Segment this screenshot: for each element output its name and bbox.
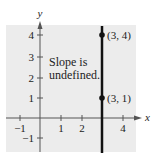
point-label-3-4: (3, 4) (107, 29, 131, 42)
x-tick-label: 4 (120, 122, 126, 134)
y-tick-label: 2 (29, 72, 35, 84)
x-tick-label: 1 (58, 122, 64, 134)
annotation-line-2: undefined. (49, 68, 100, 82)
slope-chart: −1 1 2 4 x 4 3 2 1 −1 y (3, 4) (3, 1) Sl… (0, 0, 157, 161)
y-tick-label: 4 (29, 29, 35, 41)
point-3-1 (99, 95, 105, 101)
point-label-3-1: (3, 1) (107, 92, 131, 105)
y-tick-label: −1 (22, 132, 34, 144)
point-3-4 (99, 32, 105, 38)
x-axis-label: x (144, 111, 150, 123)
x-axis-arrow-icon (134, 116, 142, 121)
annotation-line-1: Slope is (49, 55, 88, 69)
y-tick-label: 3 (29, 51, 35, 63)
y-tick-label: 1 (29, 92, 35, 104)
y-axis-label: y (37, 7, 43, 19)
x-tick-label: 2 (79, 122, 85, 134)
